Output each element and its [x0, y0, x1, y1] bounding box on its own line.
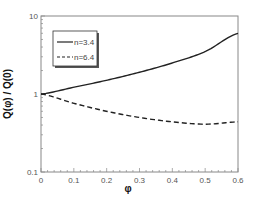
legend-label-n6.4: n=6.4	[74, 53, 95, 62]
x-tick-label: 0.1	[68, 176, 80, 185]
line-chart: 0.1110 00.10.20.30.40.50.6 φ Q(φ) / Q(0)…	[0, 0, 258, 206]
legend-label-n3.4: n=3.4	[74, 38, 95, 47]
y-tick-label: 0.1	[27, 168, 39, 177]
x-tick-label: 0.3	[134, 176, 146, 185]
y-axis-title: Q(φ) / Q(0)	[2, 69, 13, 119]
x-tick-label: 0.2	[101, 176, 113, 185]
x-axis-title: φ	[124, 183, 131, 194]
x-tick-label: 0	[39, 176, 44, 185]
y-tick-label: 1	[34, 90, 39, 99]
x-tick-label: 0.6	[232, 176, 244, 185]
x-tick-label: 0.4	[167, 176, 179, 185]
x-tick-label: 0.5	[200, 176, 212, 185]
y-tick-label: 10	[29, 12, 38, 21]
legend: n=3.4 n=6.4	[53, 31, 99, 68]
